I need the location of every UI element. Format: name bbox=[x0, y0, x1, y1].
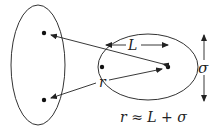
right-ellipse bbox=[98, 34, 198, 100]
arrow-r-right bbox=[109, 69, 162, 80]
point-left-bottom bbox=[42, 98, 46, 102]
point-left-top bbox=[42, 31, 46, 35]
arrow-r-left bbox=[51, 83, 96, 98]
equation: r ≈ L + σ bbox=[120, 109, 187, 125]
left-ellipse bbox=[11, 5, 65, 125]
diagram-canvas: r L σ r ≈ L + σ bbox=[0, 0, 220, 129]
label-sigma: σ bbox=[198, 59, 209, 77]
arrow-long bbox=[51, 35, 163, 64]
label-r: r bbox=[99, 74, 107, 90]
label-L: L bbox=[127, 37, 137, 53]
point-right-inner bbox=[100, 65, 104, 69]
point-right-outer bbox=[166, 65, 170, 69]
